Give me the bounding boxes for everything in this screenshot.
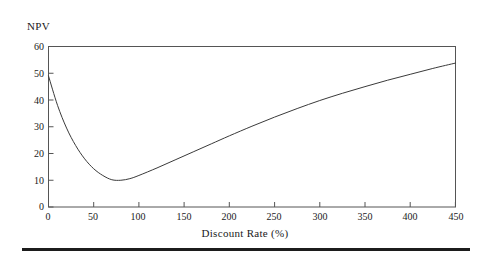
- npv-chart-figure: NPV 60 50 40 30 20 10 0 0 50 100 150 200…: [0, 0, 490, 261]
- x-axis-ticks: [49, 202, 456, 207]
- y-axis-ticks: [49, 47, 54, 208]
- plot-frame: [49, 47, 456, 208]
- plot-canvas: [0, 0, 490, 261]
- bottom-horizontal-rule: [22, 248, 470, 251]
- x-axis-title: Discount Rate (%): [0, 227, 490, 239]
- npv-curve-line: [49, 63, 456, 180]
